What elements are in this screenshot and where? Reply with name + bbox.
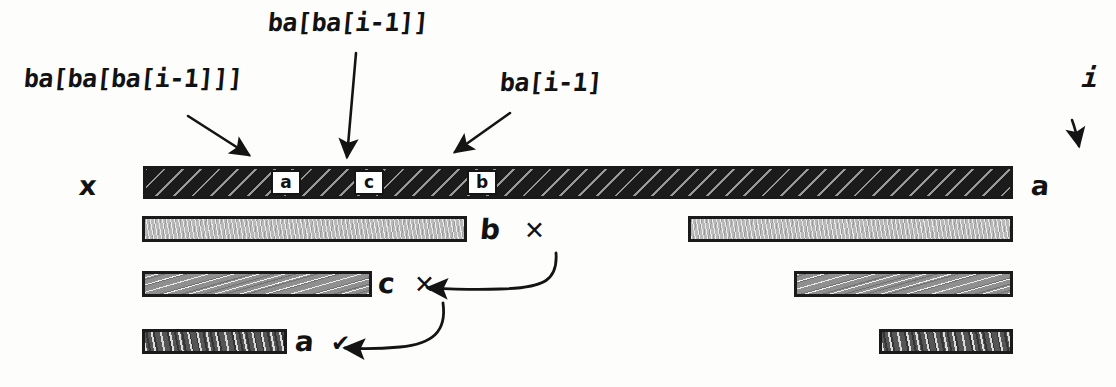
row-b-left-bar [142, 216, 467, 242]
arrow-to-cell-c [347, 53, 356, 157]
row-a-mark: ✔ [331, 332, 350, 355]
arrow-curve-b-to-c [428, 253, 556, 289]
main-bar-cell-a: a [271, 170, 301, 195]
main-bar-left-marker: x [78, 172, 98, 199]
diagram-canvas: ba[ba[ba[i-1]]] ba[ba[i-1]] ba[i-1] i x … [0, 0, 1116, 387]
arrow-index-i [1072, 120, 1079, 146]
arrow-curve-c-to-a [345, 303, 444, 349]
annotation-label-right: ba[i-1] [499, 70, 603, 95]
row-a-letter: a [294, 328, 316, 356]
main-bar-cell-c: c [354, 170, 384, 195]
row-a-left-bar [142, 329, 287, 354]
row-a-right-bar [879, 329, 1013, 354]
arrow-to-cell-a [188, 116, 249, 155]
annotation-label-center: ba[ba[i-1]] [267, 10, 429, 35]
row-c-right-bar [794, 271, 1013, 297]
row-c-letter: c [377, 270, 397, 298]
row-b-right-bar [688, 216, 1013, 242]
annotation-label-i: i [1081, 64, 1099, 91]
row-c-mark: ✕ [414, 272, 435, 297]
main-bar-cell-b: b [467, 170, 497, 195]
row-b-mark: ✕ [524, 218, 545, 243]
annotation-label-left: ba[ba[ba[i-1]]] [23, 66, 243, 91]
main-bar-right-marker: a [1030, 172, 1051, 199]
arrow-to-cell-b [455, 113, 510, 152]
row-c-left-bar [142, 271, 372, 297]
row-b-letter: b [479, 216, 502, 244]
